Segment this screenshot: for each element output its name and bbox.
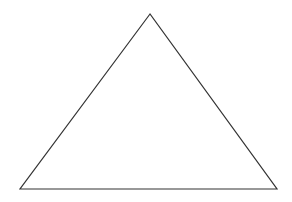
diagram-canvas <box>0 0 292 202</box>
background <box>0 0 292 202</box>
